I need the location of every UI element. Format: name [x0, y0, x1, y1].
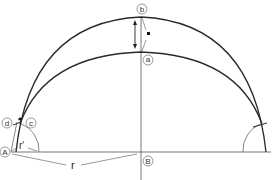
point-a: a	[143, 55, 153, 65]
arrow-head-up	[133, 20, 137, 25]
dot-marker	[18, 117, 21, 120]
r-leader-1	[12, 154, 66, 165]
svg-text:b: b	[140, 5, 145, 14]
right-joint	[253, 123, 267, 127]
svg-text:a: a	[146, 55, 151, 64]
r-prime-leader-2	[28, 148, 37, 151]
square-marker	[147, 32, 150, 35]
leader-b	[142, 18, 146, 30]
arrow-head-down	[133, 44, 137, 49]
r-prime-label: r′	[19, 140, 24, 151]
point-B: B	[143, 156, 153, 166]
r-label: r	[71, 159, 75, 171]
point-b: b	[137, 4, 147, 14]
point-A: A	[0, 147, 10, 157]
svg-text:A: A	[2, 148, 8, 157]
point-c: c	[26, 118, 36, 128]
leader-a	[142, 40, 146, 51]
arch-diagram: r′ r b a d c A B	[0, 0, 274, 180]
svg-text:B: B	[145, 157, 150, 166]
r-leader-2	[81, 154, 137, 165]
svg-text:c: c	[29, 119, 33, 128]
r-prime-leader-1	[12, 147, 18, 151]
right-springing-arc	[243, 124, 261, 152]
point-d: d	[2, 118, 12, 128]
svg-text:d: d	[5, 119, 9, 128]
